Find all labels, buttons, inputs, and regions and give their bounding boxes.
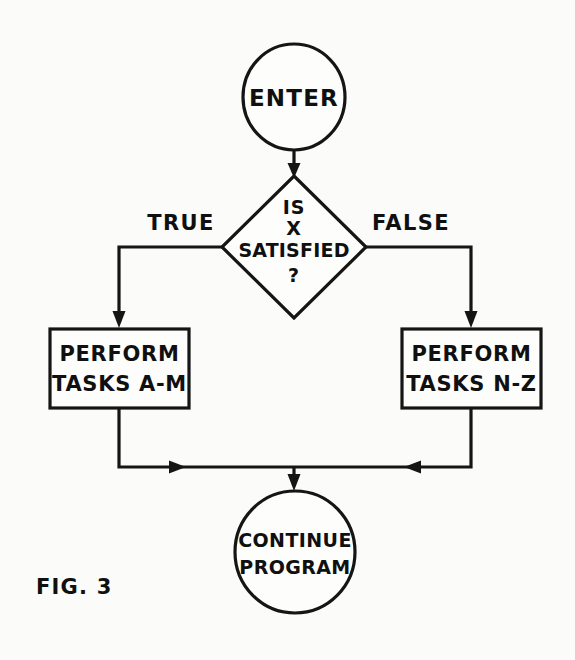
edge-merge-to-end	[288, 467, 301, 491]
edge-true-path	[119, 247, 222, 318]
arrowhead-down-to-left-box	[113, 311, 126, 328]
decision-label-line3: SATISFIED	[238, 239, 349, 261]
figure-caption: FIG. 3	[36, 575, 113, 599]
node-process-left: PERFORM TASKS A-M	[50, 329, 189, 408]
arrowhead-down-to-right-box	[465, 311, 478, 328]
edge-false-label: FALSE	[372, 211, 450, 235]
node-decision: IS X SATISFIED ?	[222, 176, 366, 318]
decision-label-line2: X	[286, 217, 302, 239]
process-right-label-line1: PERFORM	[411, 342, 531, 366]
node-end-continue: CONTINUE PROGRAM	[235, 491, 355, 613]
edge-left-to-merge	[119, 408, 294, 474]
end-label-line1: CONTINUE	[238, 529, 352, 551]
end-circle-shape	[235, 491, 355, 613]
arrowhead-left-into-merge	[404, 461, 421, 474]
edge-decision-false: FALSE	[366, 211, 478, 328]
arrowhead-right-into-merge	[169, 461, 186, 474]
process-right-label-line2: TASKS N-Z	[406, 372, 537, 396]
decision-label-line4: ?	[288, 264, 300, 286]
edge-true-label: TRUE	[147, 211, 215, 235]
edge-left-merge-path	[119, 408, 294, 467]
process-left-rect-shape	[50, 329, 189, 408]
edge-false-path	[366, 247, 471, 318]
process-left-label-line1: PERFORM	[59, 342, 179, 366]
arrowhead-down-to-end	[288, 474, 301, 491]
process-left-label-line2: TASKS A-M	[52, 372, 187, 396]
flowchart-diagram: ENTER IS X SATISFIED ? TRUE FALSE	[0, 0, 575, 660]
process-right-rect-shape	[402, 329, 541, 408]
start-label: ENTER	[249, 85, 339, 111]
edge-decision-true: TRUE	[113, 211, 223, 328]
end-label-line2: PROGRAM	[239, 556, 350, 578]
edge-right-merge-path	[294, 408, 471, 467]
decision-label-line1: IS	[283, 196, 306, 218]
figure-canvas: ENTER IS X SATISFIED ? TRUE FALSE	[0, 0, 575, 660]
edge-right-to-merge	[294, 408, 471, 474]
node-start-enter: ENTER	[243, 44, 345, 150]
node-process-right: PERFORM TASKS N-Z	[402, 329, 541, 408]
